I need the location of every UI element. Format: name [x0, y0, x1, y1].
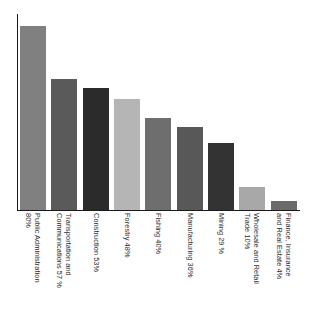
tick-label-line: Forestry 48% [123, 213, 132, 258]
bar[interactable] [114, 99, 140, 210]
tick-label: Forestry 48% [122, 213, 131, 258]
bar[interactable] [20, 26, 46, 210]
x-axis-line [17, 210, 300, 211]
tick-label: Fishing 40% [154, 213, 163, 254]
bar[interactable] [208, 143, 234, 210]
tick-label-line: Manufacturing 36% [185, 213, 194, 278]
bar[interactable] [239, 187, 265, 210]
tick-label-slot: Transportation andCommunications 57 % [49, 213, 79, 331]
tick-label-line: Trade 10% [243, 213, 252, 284]
tick-label-slot: Wholesale and RetailTrade 10% [237, 213, 267, 331]
tick-label-line: and Real Estate 4% [274, 213, 283, 279]
bar[interactable] [83, 88, 109, 210]
tick-label-slot: Construction 53% [81, 213, 111, 331]
tick-label: Mining 29 % [216, 213, 225, 254]
tick-label-slot: Finance, Insuranceand Real Estate 4% [269, 213, 299, 331]
bar[interactable] [145, 118, 171, 210]
tick-label: Wholesale and RetailTrade 10% [243, 213, 261, 284]
tick-label-slot: Mining 29 % [206, 213, 236, 331]
tick-label-line: Transportation and [65, 213, 74, 276]
tick-label-slot: Forestry 48% [112, 213, 142, 331]
tick-label-line: Wholesale and Retail [253, 213, 262, 284]
tick-label-slot: Manufacturing 36% [175, 213, 205, 331]
tick-label: Public Administration80% [24, 213, 42, 283]
x-axis-tick-labels: Public Administration80%Transportation a… [18, 213, 300, 331]
bar[interactable] [271, 201, 297, 210]
plot-area [18, 14, 300, 210]
bar[interactable] [51, 79, 77, 210]
bar[interactable] [177, 127, 203, 210]
tick-label-line: Public Administration [33, 213, 42, 283]
tick-label: Construction 53% [91, 213, 100, 272]
tick-label-line: Communications 57 % [55, 213, 64, 288]
tick-label-line: Finance, Insurance [284, 213, 293, 277]
tick-label-line: Fishing 40% [154, 213, 163, 254]
tick-label-slot: Public Administration80% [18, 213, 48, 331]
tick-label-line: 80% [24, 213, 33, 283]
tick-label-slot: Fishing 40% [143, 213, 173, 331]
tick-label-line: Construction 53% [91, 213, 100, 272]
tick-label: Manufacturing 36% [185, 213, 194, 278]
tick-label-line: Mining 29 % [217, 213, 226, 254]
bar-chart: Public Administration80%Transportation a… [0, 0, 312, 334]
tick-label: Transportation andCommunications 57 % [55, 213, 73, 288]
tick-label: Finance, Insuranceand Real Estate 4% [274, 213, 292, 279]
